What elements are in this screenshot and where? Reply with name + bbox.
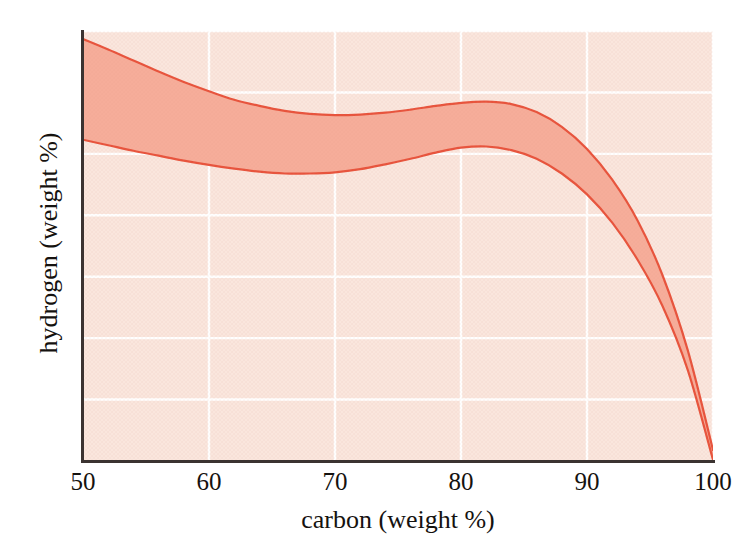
x-tick-label: 70 (323, 469, 348, 494)
y-axis-title: hydrogen (weight %) (34, 28, 64, 458)
x-axis-title: carbon (weight %) (83, 505, 713, 535)
x-tick-label: 90 (575, 469, 600, 494)
x-tick-label: 50 (71, 469, 96, 494)
x-tick-label: 60 (197, 469, 222, 494)
x-tick-label: 80 (449, 469, 474, 494)
chart-figure: 01234567 5060708090100 carbon (weight %)… (0, 0, 754, 544)
x-axis-ticks: 5060708090100 (0, 0, 754, 544)
x-tick-label: 100 (694, 469, 732, 494)
